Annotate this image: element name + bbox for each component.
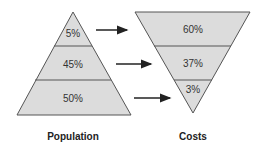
segment-label: 50% (63, 93, 83, 104)
segment-label: 60% (183, 24, 203, 35)
segment-label: 37% (183, 58, 203, 69)
population-pyramid: 5% 45% 50% (17, 12, 131, 115)
costs-caption: Costs (179, 131, 207, 142)
segment-label: 45% (63, 59, 83, 70)
segment-label: 5% (66, 28, 81, 39)
population-costs-diagram: 5% 45% 50% 60% 37% 3% Population Costs (0, 0, 263, 154)
population-caption: Population (47, 131, 99, 142)
segment-label: 3% (186, 84, 201, 95)
